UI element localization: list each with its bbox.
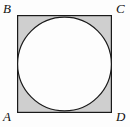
geometry-figure: B C A D (0, 0, 130, 127)
vertex-label-d: D (116, 110, 125, 123)
vertex-label-b: B (3, 2, 11, 15)
geometry-canvas (0, 0, 130, 127)
vertex-label-a: A (3, 110, 11, 123)
vertex-label-c: C (116, 2, 125, 15)
inscribed-circle (18, 17, 112, 111)
